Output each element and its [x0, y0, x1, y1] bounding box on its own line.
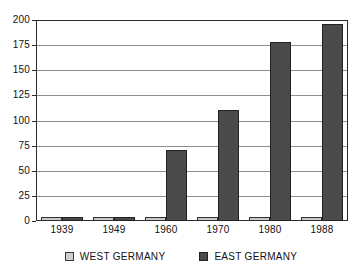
y-tick-label: 25	[0, 191, 30, 201]
y-tick-label: 0	[0, 216, 30, 226]
y-tick-mark	[32, 146, 36, 147]
y-tick-label: 75	[0, 141, 30, 151]
legend-item[interactable]: WEST GERMANY	[65, 251, 166, 262]
bar	[270, 42, 291, 221]
y-tick-mark	[32, 221, 36, 222]
bar-group	[296, 20, 348, 221]
legend-label: EAST GERMANY	[214, 251, 297, 262]
bar	[218, 110, 239, 221]
x-tick-label: 1949	[88, 224, 140, 236]
bar	[301, 217, 322, 221]
y-tick-label: 200	[0, 15, 30, 25]
bar-group	[140, 20, 192, 221]
x-tick-label: 1988	[296, 224, 348, 236]
y-tick-mark	[32, 95, 36, 96]
y-tick-label: 150	[0, 65, 30, 75]
bar-group	[36, 20, 88, 221]
bar	[62, 217, 83, 221]
y-tick-mark	[32, 45, 36, 46]
y-tick-mark	[32, 20, 36, 21]
x-tick-label: 1960	[140, 224, 192, 236]
legend-swatch-west-icon	[65, 252, 74, 261]
y-tick-label: 100	[0, 116, 30, 126]
bars-layer	[36, 20, 348, 221]
bar-group	[244, 20, 296, 221]
bar-group	[192, 20, 244, 221]
y-tick-label: 125	[0, 90, 30, 100]
legend-item[interactable]: EAST GERMANY	[199, 251, 297, 262]
y-tick-mark	[32, 196, 36, 197]
x-axis: 193919491960197019801988	[36, 224, 348, 240]
bar-group	[88, 20, 140, 221]
legend-label: WEST GERMANY	[80, 251, 166, 262]
bar	[114, 217, 135, 221]
bar	[197, 217, 218, 221]
x-tick-label: 1980	[244, 224, 296, 236]
x-tick-label: 1970	[192, 224, 244, 236]
y-axis: 0255075100125150175200	[0, 0, 30, 271]
x-tick-label: 1939	[36, 224, 88, 236]
bar	[93, 217, 114, 221]
bar	[145, 217, 166, 221]
y-tick-mark	[32, 171, 36, 172]
bar	[166, 150, 187, 221]
y-tick-label: 175	[0, 40, 30, 50]
bar	[41, 217, 62, 221]
y-tick-mark	[32, 121, 36, 122]
bar	[322, 24, 343, 221]
y-tick-label: 50	[0, 166, 30, 176]
bar	[249, 217, 270, 221]
legend-swatch-east-icon	[199, 252, 208, 261]
bar-chart: 0255075100125150175200 19391949196019701…	[0, 0, 362, 271]
chart-legend: WEST GERMANYEAST GERMANY	[0, 246, 362, 266]
y-tick-mark	[32, 70, 36, 71]
